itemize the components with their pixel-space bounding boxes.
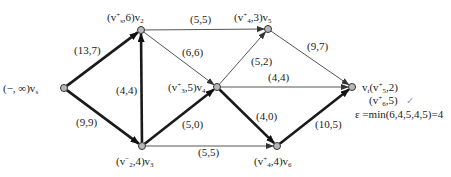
vt-alt-label-pre: (v [369, 94, 378, 106]
edge-vs-v2 [67, 32, 138, 85]
node-label-v6: (v+4,4)v6 [254, 155, 292, 167]
node-label-v4: (v+3,5)v4 [168, 81, 206, 93]
node-label-vs: (−, ∞)vs [3, 82, 38, 94]
edge-label-v4-v6: (4,0) [256, 110, 277, 122]
edge-label-v4-v5: (5,2) [251, 55, 272, 67]
edge-v3-v4 [145, 89, 214, 143]
node-vs [61, 85, 68, 92]
edge-v6-vt [280, 89, 349, 143]
edge-label-v2-v4: (6,6) [182, 46, 203, 58]
node-v5 [265, 26, 272, 33]
edge-v3-v2 [141, 34, 142, 143]
epsilon-formula: ε =min(6,4,5,4,5)=4 [355, 108, 443, 120]
vt-alt-label: (v+6,5) ✓ [369, 94, 414, 107]
vt-alt-label-post: ,5) [386, 94, 398, 106]
node-v6 [274, 143, 281, 150]
edge-label-v3-v4: (5,0) [182, 118, 203, 130]
edge-label-v6-vt: (10,5) [315, 118, 342, 130]
node-label-vt: vt(v+5,2) [362, 81, 398, 93]
node-v4 [214, 84, 221, 91]
checkmark-icon: ✓ [406, 95, 414, 106]
edge-v2-v4 [144, 32, 214, 85]
edge-label-v4-vt: (4,4) [268, 71, 289, 83]
node-label-v3: (v−2,4)v3 [116, 155, 154, 167]
node-vt [349, 84, 356, 91]
edge-label-vs-v3: (9,9) [76, 116, 97, 128]
edge-label-v3-v6: (5,5) [198, 146, 219, 158]
node-label-v2: (v+s,6)v2 [107, 11, 144, 23]
edge-label-v3-v2: (4,4) [116, 84, 137, 96]
edge-label-vs-v2: (13,7) [74, 44, 101, 56]
node-v3 [139, 143, 146, 150]
edge-label-v5-vt: (9,7) [307, 40, 328, 52]
edge-v2-v5 [144, 29, 264, 30]
node-label-v5: (v+4,3)v5 [234, 11, 272, 23]
node-v2 [138, 27, 145, 34]
edge-label-v2-v5: (5,5) [190, 13, 211, 25]
